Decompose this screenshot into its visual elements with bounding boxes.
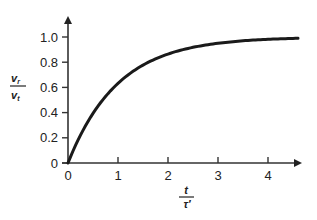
y-axis-label: vr vt <box>10 72 26 102</box>
x-axis-label: t τ′ <box>179 184 194 210</box>
y-tick-label: 0.8 <box>40 55 58 70</box>
x-tick-label: 4 <box>264 168 271 183</box>
y-tick-label: 0.2 <box>40 130 58 145</box>
y-tick-label: 1.0 <box>40 30 58 45</box>
y-ticks: 00.20.40.60.81.0 <box>40 30 68 171</box>
chart-canvas: 00.20.40.60.81.0 01234 vr vt t τ′ <box>0 0 317 220</box>
svg-text:t: t <box>184 184 189 196</box>
y-tick-label: 0.4 <box>40 105 58 120</box>
svg-text:vt: vt <box>11 89 20 102</box>
y-tick-label: 0.6 <box>40 80 58 95</box>
x-tick-label: 1 <box>114 168 121 183</box>
svg-text:vr: vr <box>11 72 21 85</box>
x-tick-label: 0 <box>64 168 71 183</box>
y-tick-label: 0 <box>51 156 58 171</box>
data-curve <box>68 38 298 163</box>
svg-text:τ′: τ′ <box>183 198 191 210</box>
x-tick-label: 2 <box>164 168 171 183</box>
x-tick-label: 3 <box>214 168 221 183</box>
x-ticks: 01234 <box>64 157 271 183</box>
